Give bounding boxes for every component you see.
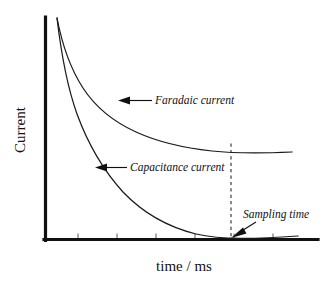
figure-root: Faradaic current Capacitance current Sam… [0, 0, 327, 286]
sampling-time-annotation-label: Sampling time [243, 208, 309, 221]
x-axis-title: time / ms [156, 258, 212, 274]
y-axis-title: Current [12, 106, 28, 153]
axes-group [44, 17, 318, 241]
faradaic-arrow-head [118, 97, 130, 105]
faradaic-annotation-label: Faradaic current [154, 94, 235, 106]
faradaic-current-curve [57, 18, 292, 153]
capacitance-annotation-callout [95, 164, 127, 172]
sampling-time-annotation-callout [231, 222, 256, 238]
capacitance-current-curve [57, 18, 298, 238]
capacitance-annotation-label: Capacitance current [130, 161, 225, 174]
decay-curve-plot: Faradaic current Capacitance current Sam… [0, 0, 327, 286]
faradaic-annotation-callout [118, 97, 152, 105]
capacitance-arrow-head [95, 164, 107, 172]
